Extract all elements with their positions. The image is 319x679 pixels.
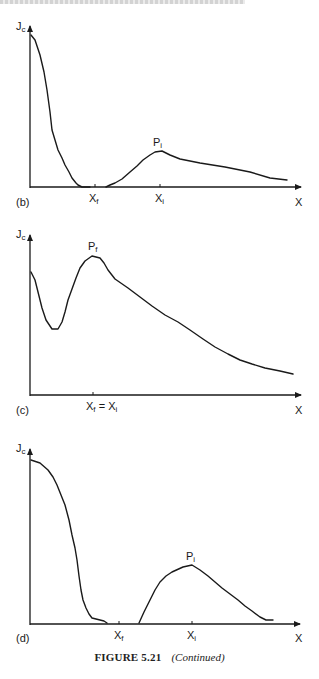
x-axis-label: X (295, 405, 302, 416)
curve (31, 35, 287, 187)
tick-label-xf: Xf (114, 630, 124, 643)
curve-segment (139, 565, 273, 623)
peak-label-pf: Pf (88, 241, 98, 254)
panel-label-b: (b) (16, 197, 29, 208)
curve-segment (31, 256, 293, 374)
tick-label-xf-eq-xi: Xf = Xi (86, 401, 117, 414)
curve (31, 460, 273, 623)
figure-plots (0, 0, 319, 679)
tick-label-xf: Xf (89, 193, 99, 206)
curve-segment (106, 151, 287, 187)
figure-continued-note: (Continued) (171, 651, 224, 663)
curve-segment (31, 35, 90, 187)
curve (31, 256, 293, 374)
y-axis-label: Jc (16, 229, 26, 242)
y-axis-label: Jc (16, 21, 26, 34)
y-axis-label: Jc (16, 443, 26, 456)
figure-caption: FIGURE 5.21(Continued) (0, 651, 319, 663)
tick-label-xi: Xi (155, 193, 164, 206)
curve-segment (31, 460, 107, 623)
x-axis-label: X (295, 633, 302, 644)
chart-panel-d (30, 449, 300, 625)
figure-number: FIGURE 5.21 (94, 651, 161, 663)
panel-label-c: (c) (16, 405, 29, 416)
chart-panel-b (30, 26, 301, 188)
peak-label-pi: Pi (153, 137, 162, 150)
chart-panel-c (30, 235, 301, 396)
tick-label-xi: Xi (187, 630, 196, 643)
x-axis-label: X (295, 197, 302, 208)
panel-label-d: (d) (16, 633, 29, 644)
peak-label-pi: Pi (186, 551, 195, 564)
